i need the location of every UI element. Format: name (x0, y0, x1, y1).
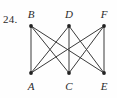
graph-vertex-d (67, 24, 71, 28)
vertex-label-e: E (101, 80, 108, 92)
graph-vertex-c (67, 71, 71, 75)
vertex-label-a: A (28, 80, 35, 92)
vertex-label-d: D (65, 8, 73, 20)
graph-vertex-a (29, 71, 33, 75)
vertex-label-b: B (28, 8, 35, 20)
graph-vertex-b (29, 24, 33, 28)
graph-vertex-f (102, 24, 106, 28)
vertex-label-f: F (101, 8, 108, 20)
vertex-label-c: C (65, 80, 72, 92)
figure-container: 24. BDFACE (0, 0, 117, 98)
graph-edges (31, 26, 104, 73)
graph-diagram (0, 0, 117, 98)
graph-vertex-e (102, 71, 106, 75)
